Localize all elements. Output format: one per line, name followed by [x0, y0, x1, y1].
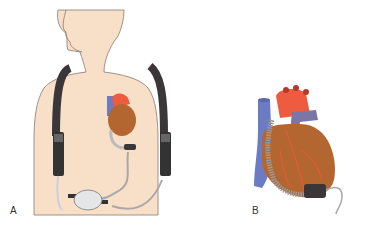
- battery-right: [160, 132, 171, 176]
- lvad-illustration: [0, 0, 373, 227]
- heart-large: [254, 85, 342, 214]
- battery-left: [53, 132, 64, 176]
- panel-label-a: A: [10, 205, 17, 216]
- panel-label-b: B: [252, 205, 259, 216]
